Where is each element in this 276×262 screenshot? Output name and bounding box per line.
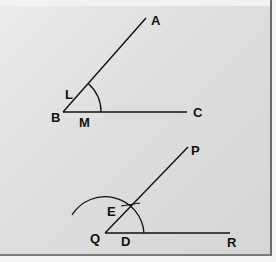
label-r: R bbox=[227, 235, 237, 250]
ray-ba bbox=[63, 18, 146, 112]
label-b: B bbox=[51, 110, 60, 125]
ray-qp bbox=[105, 147, 188, 233]
angle-pqr: P Q R E D bbox=[72, 143, 237, 250]
label-p: P bbox=[191, 143, 200, 158]
angle-abc: A B C L M bbox=[51, 13, 203, 130]
label-l: L bbox=[65, 87, 73, 102]
label-c: C bbox=[193, 105, 203, 120]
label-m: M bbox=[79, 115, 90, 130]
arc-lm bbox=[88, 84, 101, 113]
label-d: D bbox=[121, 234, 130, 249]
label-q: Q bbox=[90, 231, 100, 246]
figure: A B C L M P Q R E D bbox=[0, 0, 276, 262]
geometry-canvas: A B C L M P Q R E D bbox=[0, 0, 276, 262]
label-a: A bbox=[151, 13, 161, 28]
label-e: E bbox=[107, 204, 116, 219]
